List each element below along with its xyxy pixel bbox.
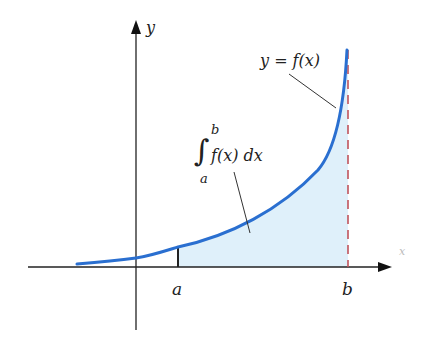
integral-lower-limit: a <box>200 171 208 186</box>
y-axis-label: y <box>145 18 156 37</box>
x-axis-arrow-icon <box>378 262 392 272</box>
integral-upper-limit: b <box>211 122 219 137</box>
integral-diagram: y x y = f(x) ∫ b a f(x) dx a b <box>0 0 434 342</box>
integral-symbol: ∫ <box>194 133 210 168</box>
curve-label: y = f(x) <box>259 51 320 70</box>
integrand-label: f(x) dx <box>210 146 263 165</box>
x-axis-label: x <box>399 245 406 258</box>
b-label: b <box>342 279 353 299</box>
a-label: a <box>172 279 182 299</box>
y-axis-arrow-icon <box>131 20 141 34</box>
curve-label-leader <box>289 74 336 108</box>
